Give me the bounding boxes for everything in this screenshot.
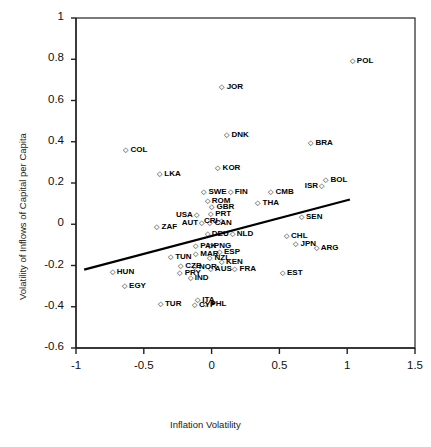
data-point-label: ZAF — [162, 222, 178, 231]
x-tick-label: -0.5 — [124, 359, 164, 371]
y-tick-label: 1 — [28, 10, 64, 22]
diamond-marker-icon: ◇ — [215, 164, 220, 171]
x-tick-label: -1 — [56, 359, 96, 371]
y-axis-label: Volatility of Inflows of Capital per Cap… — [17, 133, 28, 300]
diamond-marker-icon: ◇ — [203, 300, 208, 307]
data-point-label: FRA — [240, 264, 256, 273]
data-point-lka: ◇ LKA — [157, 170, 181, 178]
data-point-label: IND — [195, 273, 209, 282]
diamond-marker-icon: ◇ — [193, 250, 198, 257]
data-point-aus: ◇ AUS — [208, 265, 232, 273]
scatter-plot-figure: Volatility of Inflows of Capital per Cap… — [0, 0, 431, 447]
x-tick-label: 1 — [327, 359, 367, 371]
data-point-ind: ◇ IND — [188, 274, 209, 282]
data-point-label: EGY — [129, 281, 146, 290]
diamond-marker-icon: ◇ — [219, 217, 224, 224]
plot-frame — [76, 18, 415, 348]
data-point-label: TUR — [165, 299, 181, 308]
data-point-label: CRI — [204, 216, 218, 225]
data-point-label: HUN — [117, 267, 134, 276]
diamond-marker-icon: ◇ — [154, 223, 159, 230]
y-tick-marks — [71, 18, 76, 348]
diamond-marker-icon: ◇ — [284, 232, 289, 239]
diamond-marker-icon: ◇ — [224, 131, 229, 138]
diamond-marker-icon: ◇ — [177, 269, 182, 276]
diamond-marker-icon: ◇ — [268, 188, 273, 195]
diamond-marker-icon: ◇ — [299, 213, 304, 220]
data-point-label: BOL — [330, 175, 347, 184]
data-point-cmb: ◇ CMB — [268, 188, 293, 196]
data-point-label: POL — [357, 56, 373, 65]
data-point-label: EST — [287, 268, 303, 277]
data-point-bra: ◇ BRA — [308, 139, 333, 147]
data-point-label: JOR — [227, 82, 243, 91]
diamond-marker-icon: ◇ — [122, 282, 127, 289]
diamond-marker-icon: ◇ — [255, 199, 260, 206]
diamond-marker-icon: ◇ — [319, 182, 324, 189]
data-point-fra: ◇ FRA — [232, 265, 256, 273]
y-tick-label: 0.8 — [28, 51, 64, 63]
data-point-label: FIN — [235, 187, 248, 196]
data-point-cri: CRI◇ — [204, 217, 224, 225]
data-point-phl: ◇ PHL — [203, 300, 226, 308]
diamond-marker-icon: ◇ — [110, 268, 115, 275]
y-tick-label: -0.2 — [28, 258, 64, 270]
data-point-kor: ◇ KOR — [215, 164, 240, 172]
x-tick-label: 1.5 — [395, 359, 431, 371]
data-point-bol: ◇ BOL — [323, 176, 347, 184]
data-point-sen: ◇ SEN — [299, 213, 323, 221]
data-point-label: DEU — [212, 229, 229, 238]
x-tick-marks — [76, 348, 415, 354]
data-point-arg: ◇ ARG — [314, 244, 339, 252]
data-point-tha: ◇ THA — [255, 199, 279, 207]
data-point-tur: ◇ TUR — [158, 300, 182, 308]
diamond-marker-icon: ◇ — [228, 188, 233, 195]
diamond-marker-icon: ◇ — [157, 170, 162, 177]
data-point-pol: ◇ POL — [350, 57, 374, 65]
diamond-marker-icon: ◇ — [201, 188, 206, 195]
data-point-label: CMB — [275, 187, 293, 196]
data-point-col: ◇ COL — [123, 146, 147, 154]
diamond-marker-icon: ◇ — [350, 57, 355, 64]
diamond-marker-icon: ◇ — [219, 83, 224, 90]
data-point-fin: ◇ FIN — [228, 188, 248, 196]
data-point-est: ◇ EST — [280, 269, 303, 277]
data-point-label: LKA — [164, 169, 180, 178]
y-tick-label: 0.6 — [28, 93, 64, 105]
diamond-marker-icon: ◇ — [208, 265, 213, 272]
diamond-marker-icon: ◇ — [314, 244, 319, 251]
data-point-jor: ◇ JOR — [219, 83, 243, 91]
data-point-label: THA — [263, 198, 279, 207]
data-point-label: AUT — [182, 218, 198, 227]
data-point-nld: ◇ NLD — [230, 230, 254, 238]
y-tick-label: 0.2 — [28, 175, 64, 187]
data-point-label: KOR — [223, 163, 241, 172]
data-point-egy: ◇ EGY — [122, 282, 146, 290]
data-point-label: ISR — [305, 181, 318, 190]
diamond-marker-icon: ◇ — [158, 300, 163, 307]
data-point-isr: ISR◇ — [305, 182, 324, 190]
diamond-marker-icon: ◇ — [194, 211, 199, 218]
data-point-label: ARG — [321, 243, 339, 252]
x-tick-label: 0 — [192, 359, 232, 371]
diamond-marker-icon: ◇ — [123, 146, 128, 153]
data-point-label: COL — [130, 145, 147, 154]
data-point-label: BRA — [316, 138, 333, 147]
diamond-marker-icon: ◇ — [308, 139, 313, 146]
diamond-marker-icon: ◇ — [188, 274, 193, 281]
data-point-label: PHL — [210, 299, 226, 308]
y-tick-label: 0.4 — [28, 134, 64, 146]
data-point-hun: ◇ HUN — [110, 268, 135, 276]
y-tick-label: -0.6 — [28, 340, 64, 352]
data-point-label: SEN — [306, 212, 322, 221]
data-point-aut: AUT◇ — [182, 219, 204, 227]
y-tick-label: -0.4 — [28, 299, 64, 311]
data-point-label: DNK — [231, 130, 248, 139]
diamond-marker-icon: ◇ — [280, 269, 285, 276]
y-tick-label: 0 — [28, 216, 64, 228]
data-point-dnk: ◇ DNK — [224, 131, 249, 139]
x-tick-label: 0.5 — [259, 359, 299, 371]
diamond-marker-icon: ◇ — [232, 265, 237, 272]
data-point-deu: ◇ DEU — [205, 230, 229, 238]
diamond-marker-icon: ◇ — [293, 240, 298, 247]
